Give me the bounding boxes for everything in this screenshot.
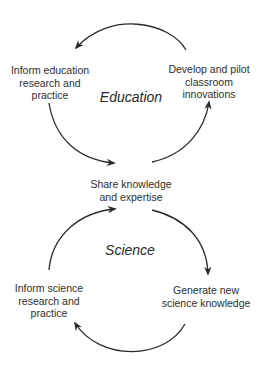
node-inform-science: Inform science research and practice (15, 282, 83, 320)
node-line: practice (15, 307, 83, 320)
node-inform-education: Inform education research and practice (11, 64, 89, 102)
node-line: Share knowledge (90, 178, 171, 191)
node-line: classroom (168, 76, 249, 89)
node-line: innovations (168, 88, 249, 101)
arrow-share-to-develop (152, 102, 209, 162)
node-line: research and (15, 295, 83, 308)
node-line: Generate new (162, 284, 251, 297)
node-line: science knowledge (162, 297, 251, 310)
arrow-share-to-generate (152, 210, 208, 274)
arrow-develop-to-inform-education (76, 24, 186, 50)
node-line: practice (11, 89, 89, 102)
arrow-inform-science-to-share (49, 209, 115, 270)
node-line: Inform education (11, 64, 89, 77)
node-generate-new: Generate new science knowledge (162, 284, 251, 309)
node-line: Inform science (15, 282, 83, 295)
arrow-generate-to-inform-science (75, 323, 185, 352)
cycle-title-education: Education (100, 89, 162, 105)
arrow-inform-education-to-share (49, 103, 114, 163)
node-line: research and (11, 77, 89, 90)
node-share-knowledge: Share knowledge and expertise (90, 178, 171, 203)
node-develop-pilot: Develop and pilot classroom innovations (168, 63, 249, 101)
node-line: Develop and pilot (168, 63, 249, 76)
cycle-title-science: Science (105, 242, 155, 258)
node-line: and expertise (90, 191, 171, 204)
